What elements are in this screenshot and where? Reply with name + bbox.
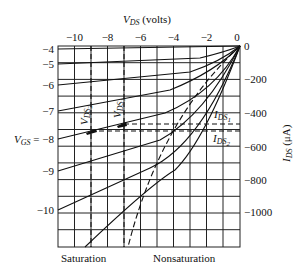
saturation-label: Saturation: [61, 252, 107, 264]
svg-text:0: 0: [244, 40, 250, 52]
svg-text:−6: −6: [135, 31, 147, 43]
chart: VDS (volts) −10 −8 −6 −4 −2 0 0 −200 −40…: [0, 0, 302, 274]
svg-text:−4: −4: [42, 43, 54, 55]
svg-text:−7: −7: [42, 105, 54, 117]
svg-text:−8: −8: [102, 31, 114, 43]
svg-text:−10: −10: [66, 31, 84, 43]
svg-text:−9: −9: [42, 165, 54, 177]
svg-text:−10: −10: [37, 204, 55, 216]
x-axis-title: VDS (volts): [123, 13, 171, 27]
svg-text:−1000: −1000: [244, 206, 273, 218]
svg-text:−400: −400: [244, 107, 267, 119]
ids1-label: IDS1: [213, 108, 231, 124]
y-tick-labels: 0 −200 −400 −600 −800 −1000: [244, 40, 273, 218]
svg-text:−200: −200: [244, 73, 267, 85]
vds2-label: VDS2: [78, 104, 94, 125]
svg-text:−800: −800: [244, 174, 267, 186]
svg-text:−6: −6: [42, 79, 54, 91]
vgs-label-8: VGS = −8: [14, 133, 54, 147]
svg-text:−600: −600: [244, 141, 267, 153]
svg-text:−2: −2: [201, 31, 213, 43]
ids2-label: IDS2: [212, 132, 230, 148]
svg-text:−4: −4: [168, 31, 180, 43]
y-axis-title: IDS (μA): [280, 124, 294, 163]
nonsaturation-label: Nonsaturation: [153, 252, 216, 264]
svg-text:0: 0: [234, 31, 240, 43]
curve-vgs-7: [58, 46, 240, 111]
curve-vgs-10: [58, 46, 240, 210]
x-tick-labels: −10 −8 −6 −4 −2 0: [66, 31, 240, 43]
vgs-labels: −4 −5 −6 −7 VGS = −8 −9 −10: [14, 43, 54, 216]
svg-text:−5: −5: [42, 58, 54, 70]
